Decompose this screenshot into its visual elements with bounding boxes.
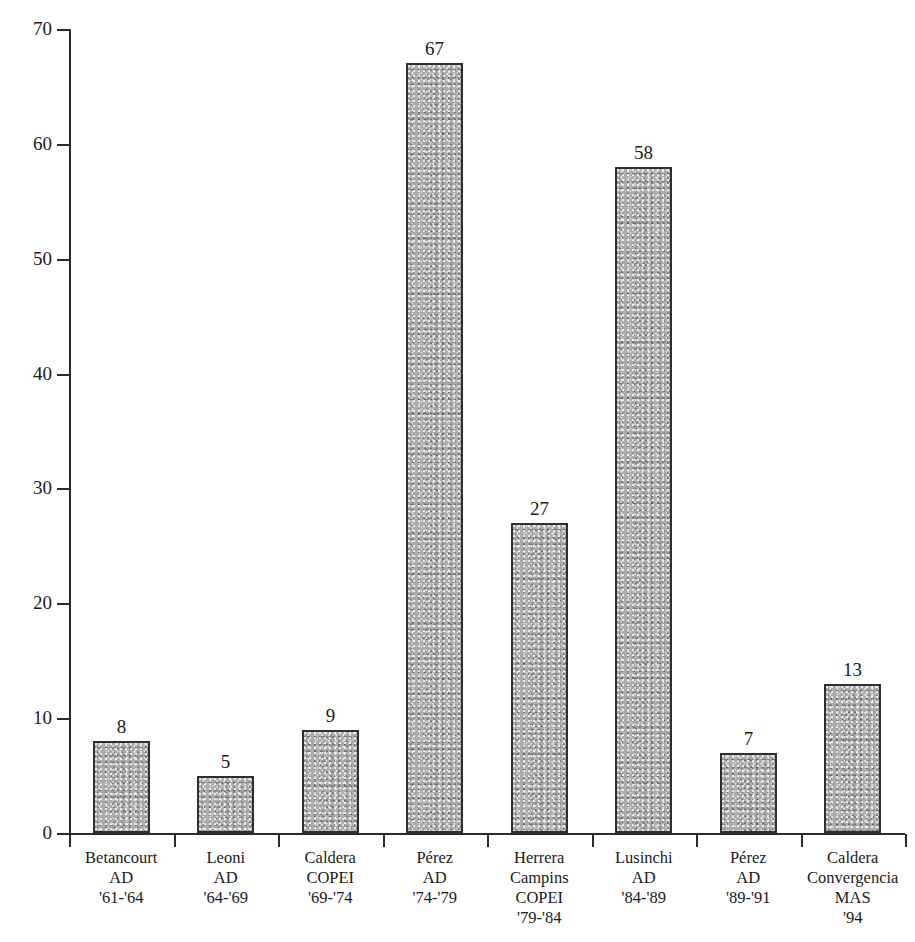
y-axis-tick-label: 30	[33, 477, 52, 499]
x-axis-category-label: LeoniAD'64-'69	[174, 848, 279, 908]
bar-value-label: 58	[634, 142, 653, 164]
category-label-line: '61-'64	[69, 888, 174, 908]
category-label-line: Caldera	[278, 848, 383, 868]
x-axis-category-label: HerreraCampinsCOPEI'79-'84	[487, 848, 592, 928]
x-axis-tick	[905, 834, 907, 847]
x-axis-category-label: CalderaConvergenciaMAS'94	[801, 848, 906, 928]
category-label-line: '64-'69	[174, 888, 279, 908]
y-axis-tick-label: 50	[33, 248, 52, 270]
category-label-line: Betancourt	[69, 848, 174, 868]
category-label-line: Pérez	[696, 848, 801, 868]
bar-value-label: 5	[221, 751, 231, 773]
category-label-line: Herrera	[487, 848, 592, 868]
category-label-line: COPEI	[278, 868, 383, 888]
category-label-line: AD	[592, 868, 697, 888]
y-axis-tick: 30	[57, 488, 71, 490]
bar: 27	[511, 523, 568, 833]
y-axis-tick: 50	[57, 259, 71, 261]
x-axis-category-label: CalderaCOPEI'69-'74	[278, 848, 383, 908]
bar: 13	[824, 684, 881, 833]
x-axis-tick	[487, 834, 489, 847]
bar-value-label: 27	[530, 498, 549, 520]
bar-value-label: 9	[326, 705, 336, 727]
category-label-line: AD	[69, 868, 174, 888]
category-label-line: '74-'79	[383, 888, 488, 908]
x-axis-tick	[278, 834, 280, 847]
category-label-line: '79-'84	[487, 908, 592, 928]
category-label-line: '69-'74	[278, 888, 383, 908]
bar: 7	[720, 753, 777, 833]
bar: 58	[615, 167, 672, 833]
category-label-line: MAS	[801, 888, 906, 908]
category-label-line: Caldera	[801, 848, 906, 868]
y-axis-tick-label: 40	[33, 363, 52, 385]
x-axis-category-label: PérezAD'89-'91	[696, 848, 801, 908]
y-axis-tick-label: 10	[33, 707, 52, 729]
y-axis-tick-label: 20	[33, 592, 52, 614]
bar: 9	[302, 730, 359, 833]
category-label-line: AD	[383, 868, 488, 888]
y-axis-tick-label: 70	[33, 18, 52, 40]
y-axis-tick: 40	[57, 374, 71, 376]
category-label-line: Convergencia	[801, 868, 906, 888]
x-axis-tick	[69, 834, 71, 847]
x-axis-tick	[383, 834, 385, 847]
x-axis-category-label: LusinchiAD'84-'89	[592, 848, 697, 908]
category-label-line: Leoni	[174, 848, 279, 868]
x-axis-tick	[696, 834, 698, 847]
category-label-line: Lusinchi	[592, 848, 697, 868]
bar: 8	[93, 741, 150, 833]
y-axis-tick-label: 60	[33, 133, 52, 155]
y-axis-tick: 60	[57, 144, 71, 146]
category-label-line: '94	[801, 908, 906, 928]
category-label-line: AD	[696, 868, 801, 888]
x-axis-tick	[174, 834, 176, 847]
bar: 67	[406, 63, 463, 833]
category-label-line: '89-'91	[696, 888, 801, 908]
category-label-line: COPEI	[487, 888, 592, 908]
category-label-line: AD	[174, 868, 279, 888]
plot-area: 010203040506070 859672758713	[69, 29, 905, 835]
bar-value-label: 8	[117, 716, 127, 738]
bar-value-label: 67	[425, 38, 444, 60]
category-label-line: '84-'89	[592, 888, 697, 908]
category-label-line: Campins	[487, 868, 592, 888]
y-axis-tick-label: 0	[43, 822, 53, 844]
x-axis-tick	[592, 834, 594, 847]
y-axis-tick: 20	[57, 603, 71, 605]
x-axis-tick	[801, 834, 803, 847]
x-axis-category-label: PérezAD'74-'79	[383, 848, 488, 908]
bar-chart-figure: Number of decrees issued 010203040506070…	[0, 0, 915, 942]
x-axis-category-label: BetancourtAD'61-'64	[69, 848, 174, 908]
bar: 5	[197, 776, 254, 833]
y-axis-tick: 10	[57, 718, 71, 720]
bar-value-label: 13	[843, 659, 862, 681]
bar-value-label: 7	[744, 728, 754, 750]
y-axis-tick: 70	[57, 29, 71, 31]
y-axis-line	[69, 29, 71, 835]
category-label-line: Pérez	[383, 848, 488, 868]
